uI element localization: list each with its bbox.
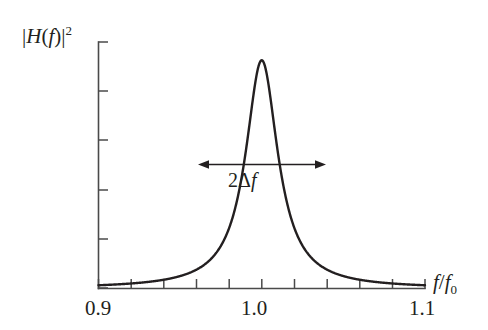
x-axis-label-subscript: 0	[451, 282, 458, 297]
fwhm-annotation-f: f	[251, 169, 257, 191]
fwhm-annotation-arrow	[198, 160, 326, 168]
resonance-curve	[99, 60, 426, 285]
fwhm-annotation-two: 2	[228, 169, 238, 191]
y-axis-ticks	[99, 42, 109, 288]
x-tick-label-1: 1.0	[241, 298, 267, 319]
x-tick-label-2: 1.1	[409, 298, 435, 319]
y-axis-label-exponent: 2	[65, 23, 72, 38]
fwhm-annotation-label: 2Δf	[228, 170, 256, 190]
resonance-figure: |H(f)|2 f/f0 0.9 1.0 1.1 2Δf	[0, 0, 488, 330]
fwhm-annotation-delta: Δ	[238, 169, 251, 191]
x-axis-label: f/f0	[433, 272, 457, 296]
x-axis-ticks	[99, 279, 426, 289]
plot-canvas	[0, 0, 488, 330]
x-tick-label-0: 0.9	[85, 298, 111, 319]
y-axis-label: |H(f)|2	[22, 24, 72, 47]
